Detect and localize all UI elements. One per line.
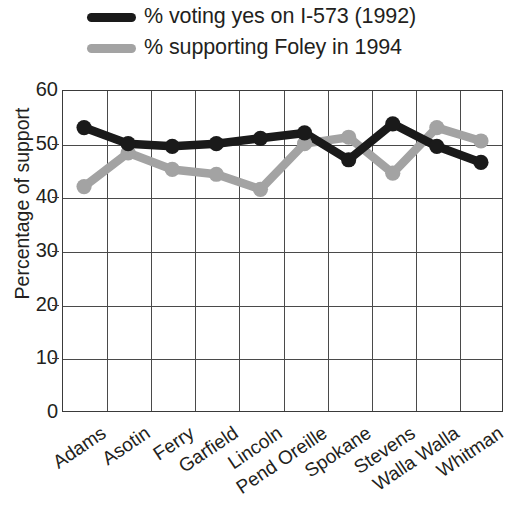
data-point-marker xyxy=(473,155,488,170)
data-point-marker xyxy=(429,120,444,135)
data-point-marker xyxy=(121,136,136,151)
data-point-marker xyxy=(341,152,356,167)
data-point-marker xyxy=(76,120,91,135)
data-point-marker xyxy=(165,139,180,154)
line-chart: % voting yes on I-573 (1992) % supportin… xyxy=(0,0,507,508)
data-point-marker xyxy=(385,166,400,181)
data-point-marker xyxy=(253,182,268,197)
data-series-layer xyxy=(0,0,507,508)
data-point-marker xyxy=(473,133,488,148)
data-point-marker xyxy=(76,179,91,194)
data-point-marker xyxy=(209,167,224,182)
data-point-marker xyxy=(385,116,400,131)
data-point-marker xyxy=(341,130,356,145)
data-point-marker xyxy=(209,136,224,151)
data-point-marker xyxy=(165,162,180,177)
data-point-marker xyxy=(429,139,444,154)
data-point-marker xyxy=(253,131,268,146)
data-point-marker xyxy=(297,125,312,140)
